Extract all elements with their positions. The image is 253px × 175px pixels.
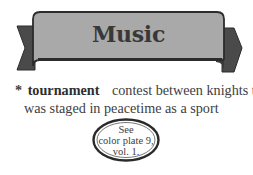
glossary-line-1: * tournament contest between knights tha… [15,81,250,99]
section-banner: Music [0,0,253,80]
glossary-term: tournament [28,82,100,98]
cross-reference-badge: See color plate 9, vol. 1. [92,118,160,162]
cross-reference-line-1: See [92,124,160,135]
cross-reference-line-2: color plate 9, [92,135,160,146]
glossary-entry: * tournament contest between knights tha… [15,81,250,117]
cross-reference-text: See color plate 9, vol. 1. [92,124,160,157]
cross-reference-line-3: vol. 1. [92,146,160,157]
asterisk-marker: * [15,82,22,98]
glossary-definition-part-1: contest between knights that [112,82,253,98]
banner-title: Music [33,21,224,47]
glossary-definition-part-2: was staged in peacetime as a sport [15,99,250,117]
